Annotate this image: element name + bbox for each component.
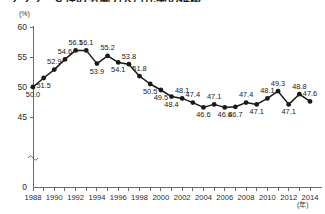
x-axis-tick-label: 2012 [280,193,297,202]
data-point-label: 48.4 [164,100,178,109]
data-point-marker [297,92,302,97]
x-axis-tick-label: 2008 [238,193,255,202]
data-point-label: 47.6 [303,89,317,98]
data-point-marker [95,61,100,66]
data-point-marker [158,88,163,93]
data-point-marker [286,102,291,107]
line-chart-plot: 455055600 198819901992199419961998200020… [0,0,325,214]
data-point-marker [52,67,57,72]
data-point-marker [63,57,68,62]
data-point-marker [201,105,206,110]
y-axis-tick-label: 55 [18,52,28,62]
x-axis: 1988199019921994199619982000200220042006… [25,187,322,202]
data-point-marker [222,105,227,110]
data-point-marker [169,94,174,99]
data-point-label: 51.8 [132,64,146,73]
x-axis-tick-label: 1988 [25,193,42,202]
y-axis: 455055600 [18,22,38,192]
data-point-marker [254,102,259,107]
x-axis-tick-label: 2000 [152,193,169,202]
x-axis-tick-label: 1994 [88,193,105,202]
data-point-label: 47.1 [250,107,264,116]
data-point-label: 56.1 [79,38,93,47]
data-point-marker [31,85,36,90]
data-point-marker [73,48,78,53]
data-point-label: 55.2 [100,43,114,52]
data-point-label: 54.6 [58,47,72,56]
data-point-label: 49.3 [271,79,285,88]
data-point-label: 46.6 [196,110,210,119]
data-point-marker [126,62,131,67]
y-axis-tick-label: 0 [22,182,27,192]
data-point-marker [148,82,153,87]
data-point-marker [212,102,217,107]
x-axis-tick-label: 1990 [46,193,63,202]
data-point-label: 51.5 [36,81,50,90]
data-point-label: 47.4 [186,90,200,99]
data-point-marker [190,100,195,105]
data-point-marker [180,96,185,101]
y-axis-tick-label: 60 [18,22,28,32]
data-point-marker [308,99,313,104]
y-axis-tick-label: 45 [18,112,28,122]
data-point-marker [84,48,89,53]
data-point-marker [137,74,142,79]
x-axis-tick-label: 2002 [174,193,191,202]
data-point-label: 47.1 [281,107,295,116]
data-point-label: 52.9 [47,57,61,66]
x-axis-tick-label: 2004 [195,193,212,202]
x-axis-tick-label: 2014 [302,193,319,202]
data-point-label: 50.0 [26,90,40,99]
data-point-marker [233,104,238,109]
x-axis-tick-label: 1998 [131,193,148,202]
chart-container: グラフ 女性の労働力人口比率の推移 (%) (年) 455055600 1988… [0,0,325,214]
data-point-label: 53.9 [90,67,104,76]
x-axis-tick-label: 1992 [67,193,84,202]
data-point-marker [265,96,270,101]
x-axis-tick-label: 1996 [110,193,127,202]
data-point-label: 46.7 [228,110,242,119]
data-point-marker [276,89,281,94]
x-axis-tick-label: 2006 [216,193,233,202]
x-axis-tick-label: 2010 [259,193,276,202]
data-point-label: 54.1 [111,65,125,74]
data-point-marker [41,76,46,81]
data-point-marker [244,100,249,105]
data-point-labels: 50.051.552.954.656.156.153.955.254.153.8… [26,38,317,120]
data-point-label: 53.8 [122,52,136,61]
data-point-marker [105,53,110,58]
data-point-marker [116,60,121,65]
data-point-label: 47.4 [239,90,253,99]
data-point-label: 47.1 [207,92,221,101]
